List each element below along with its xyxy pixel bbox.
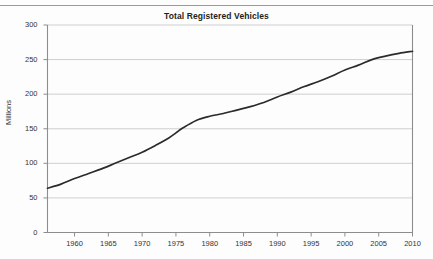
- x-tick-marks-group: [75, 233, 413, 237]
- plot-canvas: [0, 0, 433, 259]
- x-tick-label: 1995: [296, 239, 326, 248]
- x-tick-label: 1980: [195, 239, 225, 248]
- y-tick-label: 300: [12, 20, 38, 29]
- y-tick-label: 200: [12, 89, 38, 98]
- x-tick-label: 1970: [127, 239, 157, 248]
- x-tick-label: 1975: [161, 239, 191, 248]
- y-tick-label: 150: [12, 124, 38, 133]
- x-tick-label: 1960: [60, 239, 90, 248]
- x-tick-label: 1985: [229, 239, 259, 248]
- chart-figure: Total Registered Vehicles Millions 05010…: [0, 0, 433, 259]
- x-tick-label: 1990: [262, 239, 292, 248]
- x-tick-label: 2000: [330, 239, 360, 248]
- x-tick-label: 2005: [364, 239, 394, 248]
- y-tick-label: 0: [12, 228, 38, 237]
- y-tick-label: 250: [12, 55, 38, 64]
- y-tick-marks-group: [44, 25, 48, 233]
- data-line-total-registered-vehicles: [48, 51, 413, 188]
- y-tick-label: 50: [12, 193, 38, 202]
- y-tick-label: 100: [12, 158, 38, 167]
- x-tick-label: 2010: [398, 239, 428, 248]
- x-tick-label: 1965: [93, 239, 123, 248]
